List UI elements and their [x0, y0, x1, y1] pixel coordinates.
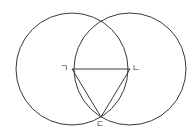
segment-n-d	[101, 69, 130, 117]
geometry-diagram	[0, 0, 196, 136]
point-label-d: ㄷ	[96, 120, 104, 129]
point-label-n: ㄴ	[132, 64, 140, 73]
segment-g-d	[72, 69, 101, 117]
point-label-g: ㄱ	[60, 64, 68, 73]
